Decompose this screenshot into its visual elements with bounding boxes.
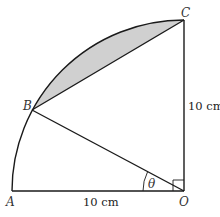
dimension-OC: 10 cm (188, 99, 220, 113)
radius-OB (32, 110, 184, 191)
label-B: B (22, 99, 32, 113)
angle-arc-theta (143, 172, 148, 191)
label-theta: θ (148, 177, 156, 191)
sector-diagram: θ A B C O 10 cm 10 cm (0, 0, 220, 217)
label-A: A (5, 195, 15, 209)
label-C: C (181, 6, 190, 20)
dimension-OA: 10 cm (83, 195, 119, 209)
label-O: O (179, 195, 189, 209)
chord-BC (32, 20, 184, 110)
